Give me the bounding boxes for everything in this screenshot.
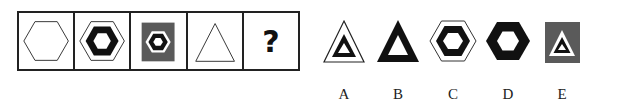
question-mark: ? [244,13,298,69]
triangle-on-gray-square-icon [537,16,587,66]
thick-triangle-icon [373,16,423,66]
sequence-cell-5: ? [244,13,298,69]
option-c-label[interactable]: C [438,86,468,103]
hexagon-on-gray-square-icon [131,13,185,69]
triangle-outline-icon [188,13,242,69]
option-d-label[interactable]: D [493,86,523,103]
sequence-cell-2 [75,13,131,69]
sequence-cell-3 [131,13,187,69]
nested-triangle-icon [319,16,369,66]
option-e-figure[interactable] [537,16,587,66]
option-b-figure[interactable] [373,16,423,66]
option-d-figure[interactable] [483,16,533,66]
option-e-label[interactable]: E [547,86,577,103]
hexagon-outline-icon [19,13,73,69]
option-a-label[interactable]: A [329,86,359,103]
thick-hexagon-icon [483,16,533,66]
option-a-figure[interactable] [319,16,369,66]
sequence-cell-1 [19,13,75,69]
nested-hexagon-icon [428,16,478,66]
sequence-cell-4 [188,13,244,69]
sequence-row: ? [17,11,300,71]
nested-hexagon-icon [75,13,129,69]
option-b-label[interactable]: B [383,86,413,103]
option-c-figure[interactable] [428,16,478,66]
